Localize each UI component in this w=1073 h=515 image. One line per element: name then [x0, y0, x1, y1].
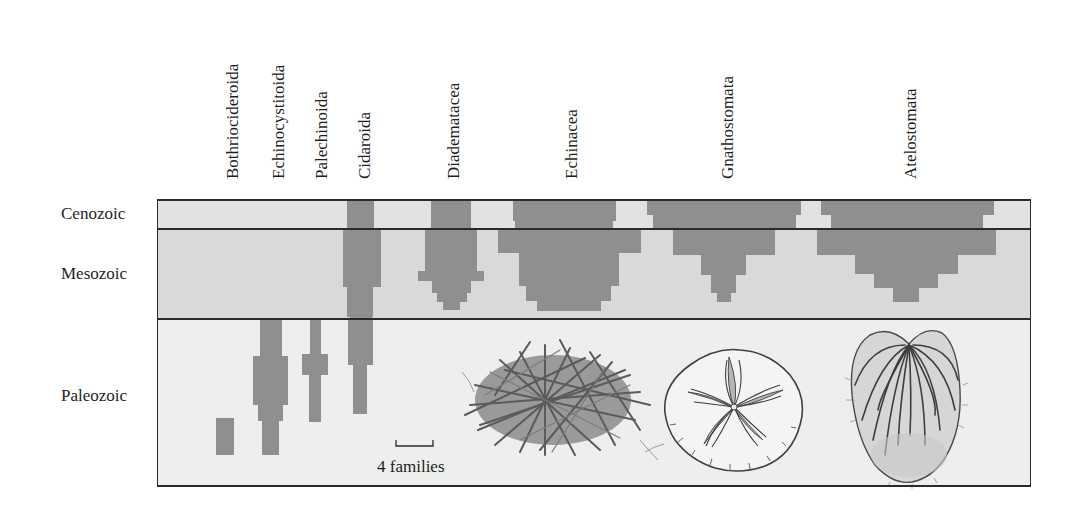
spindle-diadematacea	[418, 200, 484, 310]
regular-sea-urchin-illustration	[462, 340, 658, 460]
scale-bar-label: 4 families	[377, 457, 445, 477]
spindle-bothriocideroida	[216, 418, 234, 455]
cenozoic-mesozoic-boundary	[157, 228, 1031, 230]
heart-urchin-illustration	[845, 331, 968, 489]
spindle-echinocystitoida	[253, 319, 288, 455]
spindle-palechinoida	[302, 319, 328, 422]
spindle-echinacea	[498, 200, 641, 311]
spindle-gnathostomata	[647, 200, 801, 302]
top-border	[157, 199, 1031, 201]
scale-bar	[396, 440, 433, 446]
sand-dollar-illustration	[645, 350, 802, 471]
bottom-border	[157, 485, 1031, 487]
spindle-atelostomata	[817, 200, 996, 302]
mesozoic-paleozoic-boundary	[157, 318, 1031, 320]
spindle-diagram	[0, 0, 1073, 515]
spindle-cidaroida	[343, 200, 381, 414]
